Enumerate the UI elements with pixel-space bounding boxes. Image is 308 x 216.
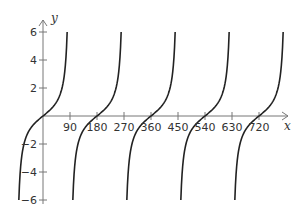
tick-labels: 90180270360450540630720−6−4−2246yx (21, 11, 291, 207)
x-tick-label: 630 (222, 121, 243, 134)
tangent-chart: 90180270360450540630720−6−4−2246yx (0, 0, 308, 216)
y-axis-label: y (50, 11, 58, 25)
y-tick-label: −4 (21, 166, 37, 179)
x-tick-label: 450 (168, 121, 189, 134)
x-tick-label: 720 (249, 121, 270, 134)
y-tick-label: −2 (21, 138, 37, 151)
x-tick-label: 180 (87, 121, 108, 134)
y-tick-label: 6 (30, 26, 37, 39)
x-tick-label: 270 (114, 121, 135, 134)
x-axis-label: x (284, 119, 291, 133)
x-tick-label: 540 (195, 121, 216, 134)
y-tick-label: 2 (30, 82, 37, 95)
y-tick-label: −6 (21, 194, 37, 207)
x-tick-label: 90 (63, 121, 77, 134)
axes (39, 20, 288, 204)
y-tick-label: 4 (30, 54, 37, 67)
x-tick-label: 360 (141, 121, 162, 134)
